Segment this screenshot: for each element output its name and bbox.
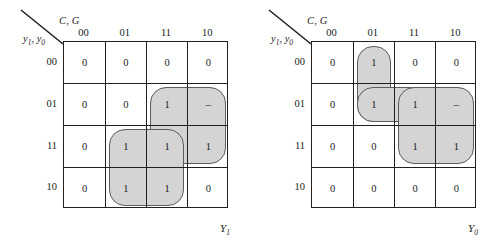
kmap-cell-r2-c2: 1: [147, 126, 188, 168]
column-header-11-2: 11: [394, 26, 435, 40]
kmap-cell-r0-c1: 0: [105, 42, 146, 84]
column-header-10-3: 10: [435, 26, 476, 40]
kmap-cell-r2-c0: 0: [312, 126, 353, 168]
kmap-cell-r0-c0: 0: [64, 42, 105, 84]
kmap-cell-r2-c0: 0: [64, 126, 105, 168]
kmap-cell-r3-c3: 0: [188, 167, 229, 209]
row-header-01-1: 01: [18, 83, 57, 125]
kmap-cell-r0-c3: 0: [188, 42, 229, 84]
row-header-01-1: 01: [266, 83, 305, 125]
kmap-cell-r1-c0: 0: [312, 84, 353, 126]
kmap-cell-r3-c0: 0: [64, 167, 105, 209]
kmap-cell-r0-c3: 0: [436, 42, 477, 84]
row-header-11-2: 11: [266, 125, 305, 167]
kmap-cell-r0-c2: 0: [147, 42, 188, 84]
column-header-00-0: 00: [311, 26, 352, 40]
row-header-00-0: 00: [266, 41, 305, 83]
column-header-01-1: 01: [352, 26, 393, 40]
kmap-cell-r2-c3: 1: [436, 126, 477, 168]
kmap-cell-r1-c0: 0: [64, 84, 105, 126]
column-header-10-3: 10: [187, 26, 228, 40]
kmap-cell-r0-c2: 0: [395, 42, 436, 84]
kmap-cell-r1-c3: –: [436, 84, 477, 126]
output-label-Y1: Y1: [220, 222, 230, 237]
column-header-01-1: 01: [104, 26, 145, 40]
column-variable-label: C, G: [307, 15, 328, 26]
kmap-cell-r0-c1: 1: [353, 42, 394, 84]
kmap-cell-r3-c1: 1: [105, 167, 146, 209]
kmap-cell-r3-c1: 0: [353, 167, 394, 209]
output-label-Y0: Y0: [468, 222, 478, 237]
kmap-Y0: C, Gy1, y000011110000111100100011–001100…: [248, 0, 496, 249]
kmap-cell-r1-c2: 1: [147, 84, 188, 126]
kmap-Y1: C, Gy1, y000011110000111100000001–011101…: [0, 0, 248, 249]
column-header-00-0: 00: [63, 26, 104, 40]
kmap-cell-r2-c1: 1: [105, 126, 146, 168]
kmap-grid: 0100011–00110000: [311, 41, 476, 208]
kmap-cell-r3-c3: 0: [436, 167, 477, 209]
kmap-cell-r3-c0: 0: [312, 167, 353, 209]
kmap-cell-r2-c3: 1: [188, 126, 229, 168]
kmap-cell-r2-c2: 1: [395, 126, 436, 168]
row-header-11-2: 11: [18, 125, 57, 167]
kmap-cell-r1-c1: 1: [353, 84, 394, 126]
kmap-cell-r0-c0: 0: [312, 42, 353, 84]
kmap-cell-r1-c3: –: [188, 84, 229, 126]
column-variable-label: C, G: [59, 15, 80, 26]
row-header-10-3: 10: [266, 166, 305, 208]
kmap-cell-r2-c1: 0: [353, 126, 394, 168]
row-header-10-3: 10: [18, 166, 57, 208]
kmap-cell-r3-c2: 1: [147, 167, 188, 209]
kmap-cell-r1-c1: 0: [105, 84, 146, 126]
kmap-cell-r1-c2: 1: [395, 84, 436, 126]
row-header-00-0: 00: [18, 41, 57, 83]
kmap-cell-r3-c2: 0: [395, 167, 436, 209]
kmap-grid: 0000001–01110110: [63, 41, 228, 208]
column-header-11-2: 11: [146, 26, 187, 40]
